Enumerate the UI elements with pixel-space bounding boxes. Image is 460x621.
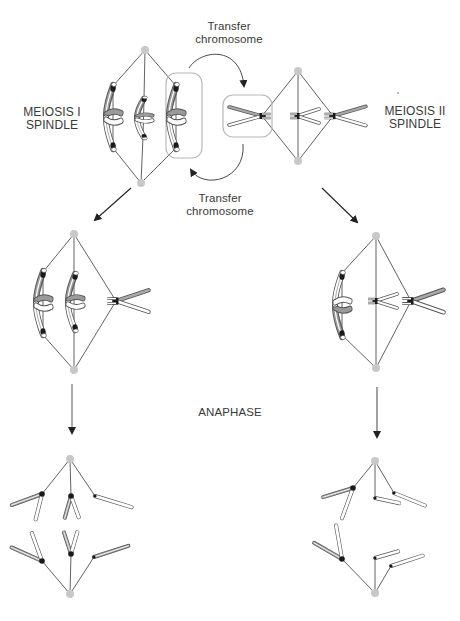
meiosis-2-spindle <box>223 67 399 165</box>
spindle-pole-bottom <box>372 364 380 372</box>
kinetochore <box>92 555 95 558</box>
label-line: SPINDLE <box>380 118 450 131</box>
progression-arrows <box>72 188 377 437</box>
transfer-arrow-bottom <box>191 144 243 180</box>
spindle-pole-bottom <box>371 589 379 597</box>
univalent-center <box>368 294 397 308</box>
chromatid <box>65 496 71 518</box>
chromatid <box>71 496 79 518</box>
univalent-center <box>290 109 319 123</box>
meiosis-2-spindle-label: MEIOSIS II SPINDLE <box>380 105 450 131</box>
meiosis-transfer-diagram <box>0 0 460 621</box>
spindle-pole-top <box>371 457 379 465</box>
transfer-chromosome-label-top: Transfer chromosome <box>184 20 274 46</box>
kinetochore <box>68 493 74 499</box>
spindle-fibers <box>43 234 116 370</box>
kinetochore <box>339 556 345 562</box>
bivalent-left <box>103 82 121 151</box>
chromatid <box>71 532 77 554</box>
kinetochore <box>68 551 74 557</box>
chromatid <box>94 546 128 557</box>
spindle-pole-bottom <box>70 366 78 374</box>
univalent-transferred <box>230 107 271 125</box>
arrow-to-meiosis-1-transfer <box>95 188 131 220</box>
anaphase-1 <box>12 455 132 598</box>
label-line: chromosome <box>184 33 274 46</box>
label-line: Transfer <box>184 20 274 33</box>
kinetochore <box>373 496 376 499</box>
kinetochore <box>392 491 395 494</box>
transfer-chromosome-label-bottom: Transfer chromosome <box>175 192 265 218</box>
meiosis-1-spindle <box>103 46 202 187</box>
spindle-pole-top <box>372 232 380 240</box>
chromatid <box>391 556 423 566</box>
bivalent-right-transferred <box>166 82 184 151</box>
spindle-pole-top <box>294 67 302 75</box>
chromatid <box>375 551 399 558</box>
kinetochore <box>389 564 392 567</box>
kinetochore <box>39 491 45 497</box>
chromatid <box>12 494 42 505</box>
bivalent-left <box>33 268 51 337</box>
label-line: ANAPHASE <box>190 406 270 419</box>
kinetochore <box>93 494 96 497</box>
spindle-pole-top <box>66 455 74 463</box>
univalent-right <box>402 290 443 313</box>
meiosis-1-spindle-label: MEIOSIS I SPINDLE <box>22 106 82 132</box>
spindle-pole-top <box>141 46 149 54</box>
transfer-arrow-top <box>189 54 244 86</box>
kinetochore <box>373 556 376 559</box>
meiosis-1-after-transfer <box>33 230 149 374</box>
univalent-transferred-in <box>107 290 148 312</box>
kinetochore <box>350 485 356 491</box>
label-line: chromosome <box>175 205 265 218</box>
spindle-fibers <box>42 459 95 594</box>
anaphase-2 <box>314 457 425 597</box>
arrow-to-meiosis-2-transfer <box>322 188 357 222</box>
univalent-right <box>324 107 365 126</box>
transfer-arrows <box>189 54 244 180</box>
speck <box>397 92 399 94</box>
meiosis-2-after-transfer <box>332 232 444 372</box>
spindle-pole-bottom <box>137 179 145 187</box>
spindle-fibers <box>342 461 394 593</box>
bivalent-transferred-in <box>332 270 350 339</box>
label-line: SPINDLE <box>22 119 82 132</box>
bivalent-center <box>134 96 152 140</box>
chromatid <box>95 496 131 507</box>
label-line: Transfer <box>175 192 265 205</box>
chromatid <box>375 498 400 503</box>
spindle-pole-bottom <box>294 157 302 165</box>
spindle-pole-bottom <box>66 590 74 598</box>
kinetochore <box>39 558 45 564</box>
anaphase-label: ANAPHASE <box>190 406 270 419</box>
spindle-pole-top <box>70 230 78 238</box>
